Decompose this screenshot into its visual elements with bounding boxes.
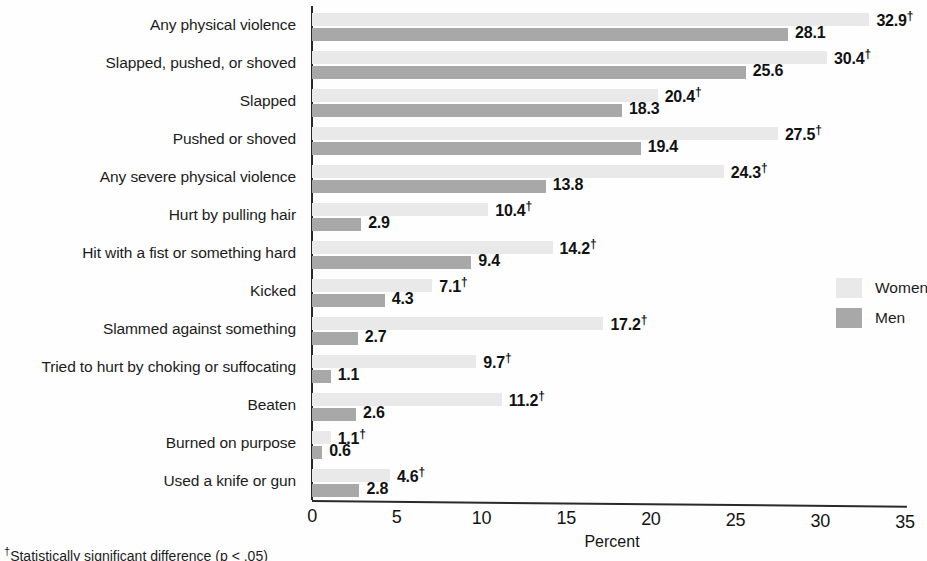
legend-item-men: Men [836, 303, 927, 333]
bar-men [312, 218, 361, 231]
bar-value-label: 10.4† [495, 199, 532, 220]
x-tick-label: 35 [895, 512, 914, 533]
legend: Women Men [836, 273, 927, 333]
category-label: Slapped, pushed, or shoved [106, 54, 296, 72]
bar-value-label: 18.3 [629, 100, 659, 118]
bar-men [312, 142, 641, 155]
bar-value-label: 1.1 [338, 366, 360, 384]
category-label: Hit with a fist or something hard [82, 244, 296, 262]
bar-value-label: 2.9 [368, 214, 390, 232]
category-label: Kicked [250, 282, 296, 300]
bar-group: 32.9†28.1 [312, 13, 905, 41]
category-label: Pushed or shoved [173, 130, 296, 148]
bar-value-label: 27.5† [785, 123, 822, 144]
bar-value-label: 19.4 [648, 138, 678, 156]
legend-label-men: Men [875, 309, 905, 327]
bar-men [312, 370, 331, 383]
bar-women [312, 393, 502, 406]
bar-women [312, 51, 827, 64]
legend-swatch-women [836, 278, 862, 298]
bar-value-label: 25.6 [753, 62, 783, 80]
bar-group: 11.2†2.6 [312, 393, 905, 421]
bar-men [312, 294, 385, 307]
bar-group: 14.2†9.4 [312, 241, 905, 269]
bar-group: 20.4†18.3 [312, 89, 905, 117]
bar-value-label: 9.7† [483, 351, 511, 372]
category-label: Used a knife or gun [163, 472, 296, 490]
bar-women [312, 203, 488, 216]
category-label: Hurt by pulling hair [169, 206, 296, 224]
bar-women [312, 241, 553, 254]
x-tick-label: 10 [472, 508, 491, 529]
bar-value-label: 20.4† [665, 85, 702, 106]
bar-group: 24.3†13.8 [312, 165, 905, 193]
bar-men [312, 408, 356, 421]
bar-value-label: 17.2† [610, 313, 647, 334]
bar-value-label: 2.7 [365, 328, 387, 346]
bar-group: 17.2†2.7 [312, 317, 905, 345]
bar-chart: Any physical violenceSlapped, pushed, or… [0, 0, 927, 561]
bar-value-label: 2.6 [363, 404, 385, 422]
category-label: Slammed against something [103, 320, 296, 338]
bar-women [312, 165, 724, 178]
bar-value-label: 7.1† [439, 275, 467, 296]
category-label: Beaten [247, 396, 296, 414]
bar-men [312, 180, 546, 193]
bar-group: 27.5†19.4 [312, 127, 905, 155]
x-tick-label: 5 [392, 507, 402, 528]
bar-value-label: 9.4 [478, 252, 500, 270]
bar-value-label: 14.2† [560, 237, 597, 258]
bar-men [312, 104, 622, 117]
footnote: †Statistically significant difference (p… [4, 545, 268, 561]
bar-value-label: 32.9† [876, 9, 913, 30]
x-tick-label: 30 [811, 511, 830, 532]
legend-label-women: Women [875, 279, 927, 297]
bar-group: 30.4†25.6 [312, 51, 905, 79]
x-tick-label: 15 [556, 508, 575, 529]
category-axis-labels: Any physical violenceSlapped, pushed, or… [0, 6, 304, 500]
bar-value-label: 13.8 [553, 176, 583, 194]
category-label: Any severe physical violence [100, 168, 296, 186]
bar-men [312, 66, 746, 79]
bar-group: 7.1†4.3 [312, 279, 905, 307]
bar-men [312, 256, 471, 269]
bar-value-label: 4.6† [397, 465, 425, 486]
bar-value-label: 2.8 [366, 480, 388, 498]
bar-women [312, 127, 778, 140]
bar-value-label: 24.3† [731, 161, 768, 182]
category-label: Any physical violence [150, 16, 296, 34]
bar-value-label: 4.3 [392, 290, 414, 308]
bar-women [312, 317, 603, 330]
bar-group: 10.4†2.9 [312, 203, 905, 231]
bar-value-label: 11.2† [509, 389, 545, 410]
legend-swatch-men [836, 308, 862, 328]
legend-item-women: Women [836, 273, 927, 303]
bar-men [312, 446, 322, 459]
bar-value-label: 0.6 [329, 442, 351, 460]
bar-women [312, 431, 331, 444]
bar-group: 1.1†0.6 [312, 431, 905, 459]
category-label: Burned on purpose [166, 434, 296, 452]
category-label: Slapped [240, 92, 296, 110]
bar-men [312, 28, 788, 41]
bar-group: 9.7†1.1 [312, 355, 905, 383]
bar-men [312, 484, 359, 497]
bar-men [312, 332, 358, 345]
bar-group: 4.6†2.8 [312, 469, 905, 497]
category-label: Tried to hurt by choking or suffocating [41, 358, 296, 376]
x-tick-label: 25 [726, 510, 745, 531]
plot-area: 32.9†28.130.4†25.620.4†18.327.5†19.424.3… [312, 6, 905, 500]
bar-value-label: 30.4† [834, 47, 871, 68]
x-tick-label: 20 [641, 509, 660, 530]
x-tick-label: 0 [307, 506, 317, 527]
bar-women [312, 89, 658, 102]
bar-women [312, 13, 869, 26]
x-axis-title: Percent [584, 533, 639, 551]
bar-value-label: 28.1 [795, 24, 825, 42]
bar-women [312, 279, 432, 292]
